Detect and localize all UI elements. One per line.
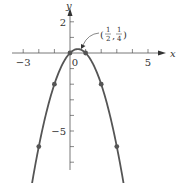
data-point: [68, 51, 73, 56]
data-point: [52, 82, 57, 87]
y-axis: [68, 8, 73, 170]
frac-num-1: 1: [106, 26, 110, 34]
svg-text:−3: −3: [16, 57, 31, 68]
frac-den-2: 4: [117, 35, 122, 43]
data-point: [99, 82, 104, 87]
parabola-chart: x y −305 2−5 ( 1 2 , 1 4 ): [0, 0, 184, 183]
svg-text:0: 0: [72, 57, 78, 68]
svg-text:−5: −5: [51, 126, 66, 137]
y-tick-labels: 2−5: [51, 17, 66, 137]
y-ticks: [70, 22, 74, 162]
svg-text:(: (: [100, 29, 104, 40]
svg-text:2: 2: [60, 17, 66, 28]
data-point: [36, 144, 41, 149]
x-axis-label: x: [170, 48, 176, 59]
y-axis-label: y: [65, 0, 72, 11]
svg-text:,: ,: [112, 30, 115, 41]
parabola-curve: [32, 49, 124, 183]
svg-text:5: 5: [145, 57, 151, 68]
svg-text:): ): [123, 29, 127, 40]
frac-den-1: 2: [106, 35, 110, 43]
vertex-annotation: ( 1 2 , 1 4 ): [81, 26, 127, 49]
frac-num-2: 1: [117, 26, 121, 34]
x-tick-labels: −305: [16, 57, 151, 68]
x-axis: [12, 51, 166, 56]
data-point: [114, 144, 119, 149]
data-point: [83, 51, 88, 56]
